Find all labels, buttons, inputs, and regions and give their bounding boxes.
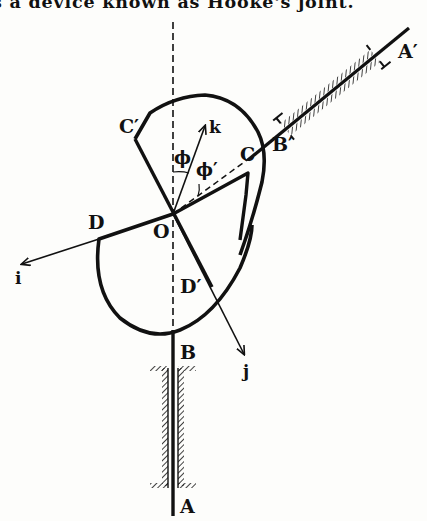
label-k: k <box>209 118 221 137</box>
i-axis-arrow <box>22 239 99 264</box>
label-i: i <box>15 269 21 288</box>
lower-yoke <box>98 214 252 334</box>
label-a: A <box>180 497 195 516</box>
label-a-prime: A′ <box>398 42 418 61</box>
label-j: j <box>243 362 249 381</box>
hookes-joint-figure <box>0 0 427 521</box>
label-o: O <box>153 222 170 241</box>
label-phi-prime: ϕ′ <box>196 160 218 179</box>
label-d-prime: D′ <box>180 277 202 296</box>
label-b: B <box>180 343 196 362</box>
label-phi: ϕ <box>174 148 191 167</box>
label-b-prime: B′ <box>272 135 293 154</box>
label-c: C <box>240 145 255 164</box>
label-d: D <box>88 213 104 232</box>
phi-prime-angle-arc <box>198 184 199 196</box>
page: s a device known as Hooke's joint. <box>0 0 427 521</box>
phi-angle-arc <box>173 172 189 173</box>
label-c-prime: C′ <box>119 117 139 136</box>
